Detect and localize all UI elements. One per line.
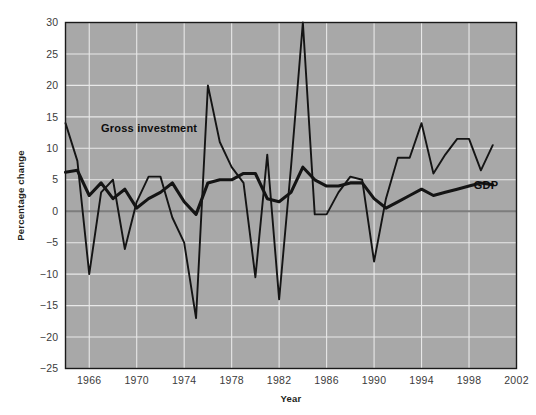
plot-background <box>66 23 517 369</box>
x-tick-label-1986: 1986 <box>314 374 339 386</box>
x-tick-label-1998: 1998 <box>457 374 482 386</box>
y-tick-label--10: −10 <box>40 268 59 280</box>
x-tick-label-1982: 1982 <box>267 374 292 386</box>
series-annotation-gross-investment: Gross investment <box>101 122 197 134</box>
y-tick-label--5: −5 <box>46 236 59 248</box>
y-tick-label-30: 30 <box>46 16 58 28</box>
y-tick-label-5: 5 <box>52 173 58 185</box>
x-tick-label-1990: 1990 <box>362 374 387 386</box>
x-axis-title: Year <box>281 393 302 404</box>
y-tick-label-0: 0 <box>52 205 58 217</box>
x-tick-label-1978: 1978 <box>219 374 244 386</box>
x-tick-label-2002: 2002 <box>504 374 529 386</box>
y-tick-label-15: 15 <box>46 111 58 123</box>
y-tick-label--20: −20 <box>40 331 59 343</box>
x-tick-label-1966: 1966 <box>77 374 102 386</box>
x-tick-label-1974: 1974 <box>172 374 197 386</box>
y-tick-label--25: −25 <box>40 362 59 374</box>
y-tick-label-25: 25 <box>46 48 58 60</box>
y-axis-title: Percentage change <box>15 150 26 241</box>
y-tick-label-10: 10 <box>46 142 58 154</box>
x-tick-label-1994: 1994 <box>409 374 434 386</box>
x-tick-label-1970: 1970 <box>124 374 149 386</box>
chart-figure: 302520151050−5−10−15−20−2519661970197419… <box>0 0 536 415</box>
series-annotation-gdp: GDP <box>474 179 498 191</box>
y-tick-label--15: −15 <box>40 299 59 311</box>
y-tick-label-20: 20 <box>46 79 58 91</box>
plot-area <box>66 23 517 369</box>
